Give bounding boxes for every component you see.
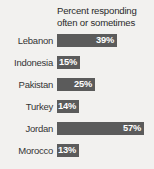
chart-title-line-1: Percent responding <box>57 5 152 17</box>
bar-row-jordan: Jordan 57% <box>0 121 154 136</box>
bar-track-morocco: 13% <box>57 144 152 157</box>
category-label-indonesia: Indonesia <box>0 55 53 70</box>
chart-title: Percent responding often or sometimes <box>57 5 152 28</box>
bar-value-jordan: 57% <box>123 122 141 135</box>
bar-chart-figure: Percent responding often or sometimes Le… <box>0 0 154 169</box>
bar-track-indonesia: 15% <box>57 56 152 69</box>
bar-row-turkey: Turkey 14% <box>0 99 154 114</box>
chart-plot-area: Lebanon 39% Indonesia 15% Pakistan 25% <box>0 33 154 165</box>
category-label-morocco: Morocco <box>0 143 53 158</box>
bar-track-turkey: 14% <box>57 100 152 113</box>
bar-value-indonesia: 15% <box>59 56 77 69</box>
category-label-pakistan: Pakistan <box>0 77 53 92</box>
bar-row-lebanon: Lebanon 39% <box>0 33 154 48</box>
bar-pakistan: 25% <box>57 78 95 91</box>
bar-row-morocco: Morocco 13% <box>0 143 154 158</box>
chart-title-line-2: often or sometimes <box>57 17 152 29</box>
category-label-lebanon: Lebanon <box>0 33 53 48</box>
bar-turkey: 14% <box>57 100 79 113</box>
bar-value-morocco: 13% <box>58 144 76 157</box>
bar-indonesia: 15% <box>57 56 80 69</box>
bar-lebanon: 39% <box>57 34 117 47</box>
bar-row-pakistan: Pakistan 25% <box>0 77 154 92</box>
bar-track-lebanon: 39% <box>57 34 152 47</box>
category-label-jordan: Jordan <box>0 121 53 136</box>
category-label-turkey: Turkey <box>0 99 53 114</box>
bar-jordan: 57% <box>57 122 144 135</box>
bar-value-turkey: 14% <box>58 100 76 113</box>
bar-track-pakistan: 25% <box>57 78 152 91</box>
bar-row-indonesia: Indonesia 15% <box>0 55 154 70</box>
bar-morocco: 13% <box>57 144 79 157</box>
bar-value-pakistan: 25% <box>74 78 92 91</box>
bar-value-lebanon: 39% <box>96 34 114 47</box>
bar-track-jordan: 57% <box>57 122 152 135</box>
